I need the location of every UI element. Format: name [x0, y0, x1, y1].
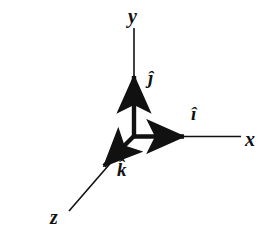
k-hat-label: k̂	[117, 160, 127, 179]
i-hat-label: î	[191, 104, 196, 123]
coordinate-axes-figure: y x z ĵ î k̂	[0, 0, 272, 240]
y-axis-label: y	[128, 6, 137, 26]
i-hat-letter: î	[191, 103, 196, 124]
j-hat-letter: ĵ	[148, 67, 153, 88]
k-hat-letter: k̂	[117, 159, 127, 180]
z-axis-label: z	[50, 207, 58, 227]
axes-drawing	[0, 0, 272, 240]
j-hat-label: ĵ	[148, 68, 153, 87]
x-axis-label: x	[245, 129, 255, 149]
